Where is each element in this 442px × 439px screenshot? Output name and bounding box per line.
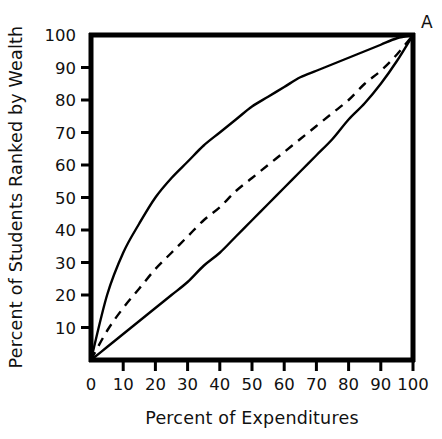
x-tick-label-70: 70 (306, 375, 327, 394)
y-axis-tick-labels: 102030405060708090100 (45, 26, 77, 338)
plot-frame (89, 33, 415, 362)
x-tick-label-30: 30 (177, 375, 198, 394)
x-tick-label-10: 10 (113, 375, 134, 394)
x-axis-title: Percent of Expenditures (145, 408, 358, 428)
y-tick-label-90: 90 (55, 59, 76, 78)
annotation-label-a: A (421, 12, 433, 32)
x-tick-label-100: 100 (397, 375, 429, 394)
y-tick-label-50: 50 (55, 189, 76, 208)
y-tick-label-80: 80 (55, 91, 76, 110)
y-tick-label-10: 10 (55, 319, 76, 338)
x-tick-label-0: 0 (86, 375, 97, 394)
x-tick-label-60: 60 (274, 375, 295, 394)
y-tick-label-20: 20 (55, 286, 76, 305)
x-tick-label-20: 20 (145, 375, 166, 394)
x-tick-label-80: 80 (338, 375, 359, 394)
chart-canvas: 102030405060708090100 010203040506070809… (0, 0, 442, 439)
data-curves (91, 35, 413, 360)
x-axis-tick-labels: 0102030405060708090100 (86, 375, 429, 394)
y-axis-title: Percent of Students Ranked by Wealth (6, 26, 26, 369)
y-tick-label-70: 70 (55, 124, 76, 143)
lorenz-curve-figure: 102030405060708090100 010203040506070809… (0, 0, 442, 439)
x-tick-label-90: 90 (370, 375, 391, 394)
y-tick-label-40: 40 (55, 221, 76, 240)
y-tick-label-30: 30 (55, 254, 76, 273)
x-tick-label-40: 40 (209, 375, 230, 394)
y-tick-label-100: 100 (45, 26, 77, 45)
x-tick-label-50: 50 (242, 375, 263, 394)
curve-dashed-curve (91, 35, 413, 360)
y-tick-label-60: 60 (55, 156, 76, 175)
